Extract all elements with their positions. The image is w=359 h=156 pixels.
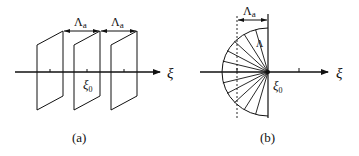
spacing-label-a-2: Λa xyxy=(111,15,124,30)
spacing-label-b: Λa xyxy=(243,4,256,19)
origin-point xyxy=(266,70,270,74)
panel-b: Λa Λ ξ0 ξ (b) xyxy=(200,4,343,145)
axis-label-b: ξ xyxy=(336,65,343,81)
caption-b: (b) xyxy=(260,130,275,145)
panel-a: Λa Λa ξ0 ξ (a) xyxy=(15,15,174,145)
axis-label-a: ξ xyxy=(167,65,174,81)
ray-label-b: Λ xyxy=(256,38,264,49)
spacing-label-a-1: Λa xyxy=(74,15,87,30)
figure-canvas: Λa Λa ξ0 ξ (a) xyxy=(0,0,359,156)
origin-label-b: ξ0 xyxy=(273,78,283,95)
caption-a: (a) xyxy=(72,130,86,145)
